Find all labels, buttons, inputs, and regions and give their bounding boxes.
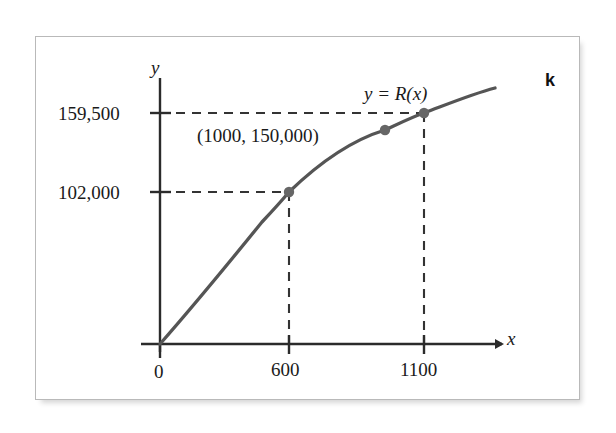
corner-mark-k: k (545, 71, 555, 89)
dashed-guides (160, 113, 424, 352)
y-tick-label-159500: 159,500 (58, 104, 120, 123)
x-tick-label-1100: 1100 (400, 360, 437, 379)
x-axis-ticks (160, 335, 424, 358)
point-annotation-1000: (1000, 150,000) (197, 126, 319, 145)
curve-equation-label: y = R(x) (364, 84, 427, 103)
data-point-1100 (419, 108, 429, 118)
data-point-1000 (380, 125, 390, 135)
y-tick-label-102000: 102,000 (58, 183, 120, 202)
figure-root: y x 159,500 102,000 0 600 1100 y = R(x) … (0, 0, 616, 433)
x-axis-arrow (495, 339, 504, 349)
y-axis-label: y (151, 58, 159, 77)
x-tick-label-0: 0 (154, 362, 164, 381)
x-tick-label-600: 600 (271, 360, 300, 379)
data-point-600 (284, 187, 294, 197)
x-axis-label: x (507, 329, 515, 348)
plot-canvas (0, 0, 616, 433)
